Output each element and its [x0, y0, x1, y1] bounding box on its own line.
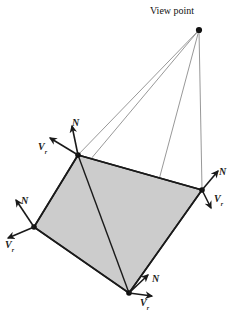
view-vector-label-text: V	[5, 239, 12, 250]
normal-label-text: N	[219, 166, 226, 177]
view-vector-left	[8, 227, 34, 238]
view-vector-label-right: Vr	[214, 194, 223, 206]
normal-label-bottom: N	[152, 274, 159, 284]
view-vector-subscript: r	[12, 247, 14, 253]
view-vector-label-text: V	[140, 297, 147, 308]
sight-line-to-right-vertex	[199, 30, 202, 189]
normal-label-text: N	[152, 273, 159, 284]
normal-label-left: N	[21, 196, 28, 206]
shaded-polygon	[34, 155, 202, 293]
normal-label-top: N	[72, 118, 79, 128]
view-vector-bottom	[129, 293, 152, 296]
normal-label-text: N	[72, 117, 79, 128]
view-vector-label-text: V	[38, 141, 45, 152]
view-point-label: View point	[150, 6, 194, 16]
view-vector-subscript: r	[45, 149, 47, 155]
view-vector-label-bottom: Vr	[140, 298, 149, 310]
view-vector-subscript: r	[221, 201, 223, 207]
perspective-projection-diagram	[0, 0, 232, 312]
view-vector-subscript: r	[147, 305, 149, 311]
view-point-marker	[196, 27, 202, 33]
view-vector-right	[202, 190, 211, 208]
view-vector-top	[50, 138, 78, 155]
normal-label-right: N	[219, 167, 226, 177]
view-vector-label-top: Vr	[38, 142, 47, 154]
normal-vector-top	[72, 126, 78, 155]
normal-label-text: N	[21, 195, 28, 206]
sight-line-to-top-vertex	[76, 30, 199, 157]
normal-vector-right	[202, 171, 218, 190]
view-vector-label-text: V	[214, 193, 221, 204]
view-vector-label-left: Vr	[5, 240, 14, 252]
